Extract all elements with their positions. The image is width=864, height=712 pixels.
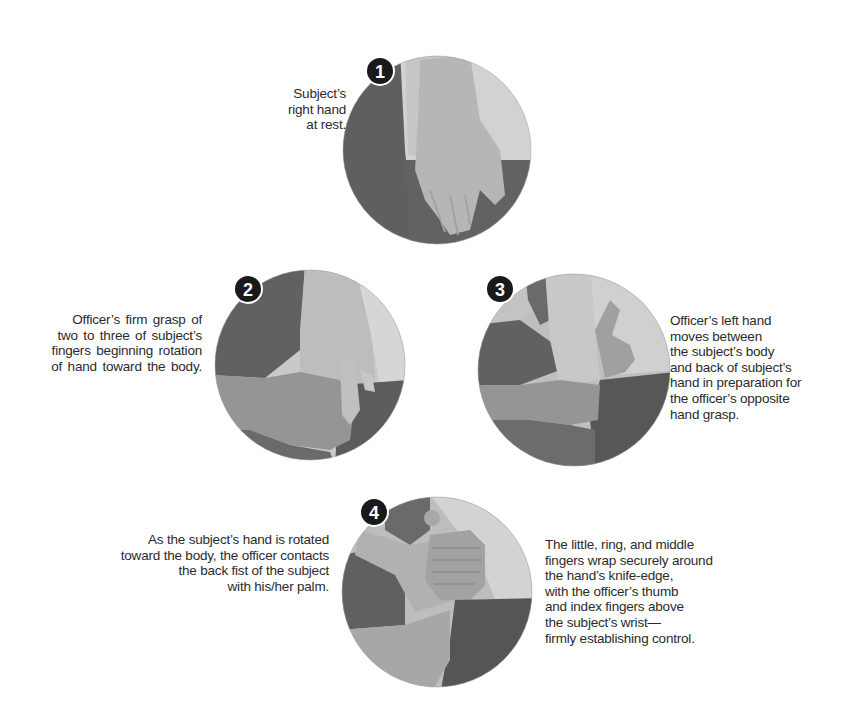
caption-line: with his/her palm. [64,579,329,595]
svg-text:3: 3 [495,280,505,300]
step-3-number-badge: 3 [486,275,514,303]
svg-text:2: 2 [243,280,253,300]
caption-line: of hand toward the body. [22,359,202,375]
hand-control-technique-diagram: 1 2 3 4 Subject’s right hand at rest. Of… [0,0,864,712]
caption-line: hand grasp. [670,407,850,423]
caption-line: toward the body, the officer contacts [64,548,329,564]
caption-line: the back fist of the subject [64,563,329,579]
caption-line: fingers wrap securely around [545,553,755,569]
caption-line: and index fingers above [545,599,755,615]
step-1-number-badge: 1 [366,57,394,85]
caption-line: with the officer’s thumb [545,584,755,600]
caption-line: the subject’s body [670,344,850,360]
caption-line: Officer’s firm grasp of [22,312,202,328]
caption-line: Officer’s left hand [670,313,850,329]
caption-line: firmly establishing control. [545,631,755,647]
svg-text:1: 1 [375,62,385,82]
caption-line: the subject’s wrist— [545,615,755,631]
caption-line: Subject’s [246,86,346,102]
step-4-left-caption: As the subject’s hand is rotated toward … [64,532,329,594]
step-1-caption: Subject’s right hand at rest. [246,86,346,133]
caption-line: hand in preparation for [670,375,850,391]
caption-line: and back of subject’s [670,360,850,376]
svg-text:4: 4 [369,503,379,523]
step-3-caption: Officer’s left hand moves between the su… [670,313,850,422]
caption-line: the hand’s knife-edge, [545,568,755,584]
step-2-number-badge: 2 [234,275,262,303]
caption-line: moves between [670,329,850,345]
step-2-caption: Officer’s firm grasp of two to three of … [22,312,202,374]
caption-line: right hand [246,102,346,118]
caption-line: the officer’s opposite [670,391,850,407]
caption-line: As the subject’s hand is rotated [64,532,329,548]
caption-line: fingers beginning rotation [22,343,202,359]
step-4-number-badge: 4 [360,498,388,526]
caption-line: two to three of subject’s [22,328,202,344]
step-4-right-caption: The little, ring, and middle fingers wra… [545,537,755,646]
caption-line: at rest. [246,117,346,133]
caption-line: The little, ring, and middle [545,537,755,553]
